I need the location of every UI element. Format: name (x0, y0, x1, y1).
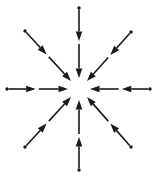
radial-arrows-svg (0, 0, 156, 178)
arrow-east-tail-dot (148, 87, 151, 90)
arrow-southeast-tail-dot (129, 145, 132, 148)
diagram-canvas (0, 0, 156, 178)
arrow-northwest-tail-dot (23, 29, 26, 32)
arrow-south-tail-dot (77, 168, 80, 171)
arrow-west-tail-dot (5, 87, 8, 90)
arrow-southwest-tail-dot (23, 145, 26, 148)
arrow-northeast-tail-dot (129, 30, 132, 33)
arrow-north-tail-dot (77, 6, 80, 9)
